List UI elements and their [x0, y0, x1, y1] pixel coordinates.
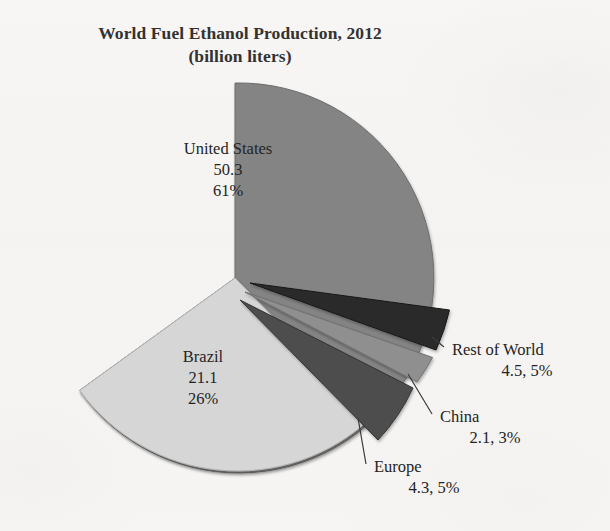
pie-label-europe-name: Europe — [374, 456, 494, 477]
pie-label-rest-of-world-value: 4.5, 5% — [452, 360, 602, 381]
pie-label-brazil-percent: 26% — [118, 388, 288, 409]
pie-label-united-states-percent: 61% — [128, 180, 328, 201]
pie-label-china-value: 2.1, 3% — [440, 427, 550, 448]
pie-label-rest-of-world-name: Rest of World — [452, 339, 602, 360]
pie-label-china: China 2.1, 3% — [440, 406, 550, 448]
leader-line-china — [408, 374, 432, 414]
pie-label-rest-of-world: Rest of World 4.5, 5% — [452, 339, 602, 381]
pie-chart-figure: World Fuel Ethanol Production, 2012 (bil… — [0, 0, 610, 531]
pie-label-europe-value: 4.3, 5% — [374, 477, 494, 498]
pie-label-china-name: China — [440, 406, 550, 427]
pie-label-united-states: United States 50.3 61% — [128, 138, 328, 201]
pie-label-brazil: Brazil 21.1 26% — [118, 346, 288, 409]
pie-label-europe: Europe 4.3, 5% — [374, 456, 494, 498]
pie-label-united-states-name: United States — [128, 138, 328, 159]
pie-chart-graphic — [0, 0, 610, 531]
pie-label-brazil-value: 21.1 — [118, 367, 288, 388]
pie-label-united-states-value: 50.3 — [128, 159, 328, 180]
pie-label-brazil-name: Brazil — [118, 346, 288, 367]
